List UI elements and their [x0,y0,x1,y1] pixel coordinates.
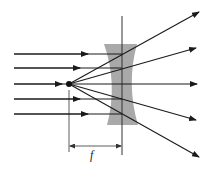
focal-length-label: f [90,148,93,163]
diverging-lens-diagram [0,0,214,169]
diverging-rays [69,12,199,157]
focal-point [66,81,72,87]
